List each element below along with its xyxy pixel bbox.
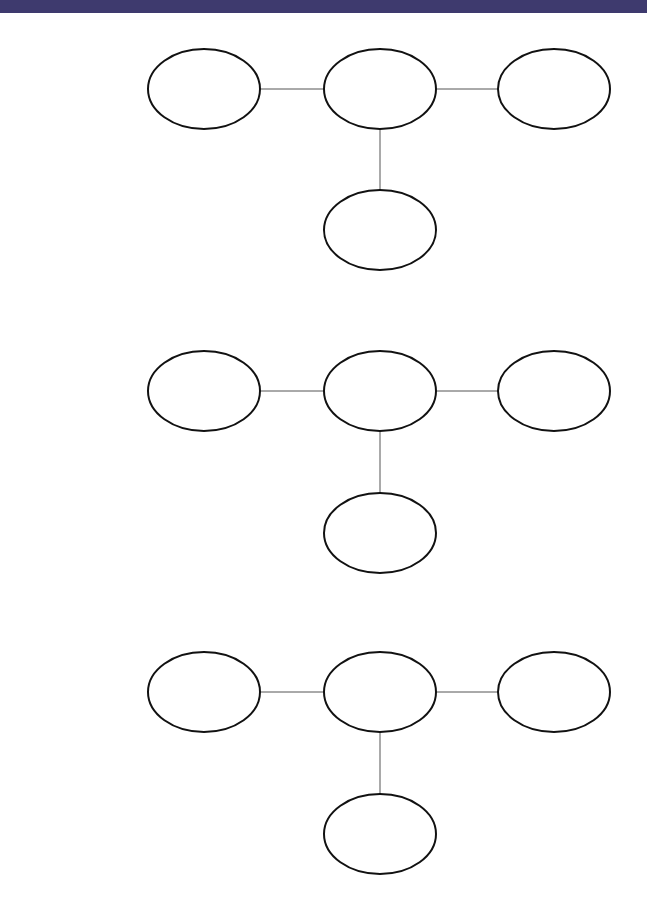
node-center bbox=[324, 351, 436, 431]
node-left bbox=[148, 49, 260, 129]
node-right bbox=[498, 351, 610, 431]
node-center bbox=[324, 49, 436, 129]
node-bottom bbox=[324, 190, 436, 270]
diagram-canvas bbox=[0, 0, 647, 913]
node-right bbox=[498, 652, 610, 732]
diagram-group-2 bbox=[148, 351, 610, 573]
node-bottom bbox=[324, 493, 436, 573]
node-left bbox=[148, 652, 260, 732]
node-right bbox=[498, 49, 610, 129]
node-bottom bbox=[324, 794, 436, 874]
node-left bbox=[148, 351, 260, 431]
diagram-group-3 bbox=[148, 652, 610, 874]
diagram-group-1 bbox=[148, 49, 610, 270]
node-center bbox=[324, 652, 436, 732]
